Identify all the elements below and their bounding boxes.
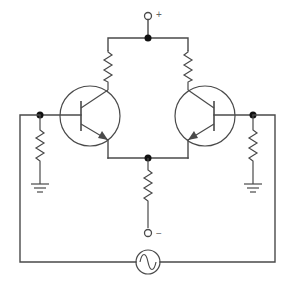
- left-npn-transistor-icon: [40, 86, 120, 158]
- collector-supply-rail: [108, 35, 188, 51]
- ac-source-icon: [136, 250, 160, 274]
- emitter-resistor-icon: [144, 158, 152, 228]
- junction-dot-top: [145, 35, 152, 42]
- negative-supply-terminal: −: [145, 228, 163, 239]
- left-base-network: [31, 112, 49, 193]
- differential-amplifier-schematic: +: [0, 0, 290, 289]
- left-collector-resistor-icon: [104, 50, 112, 90]
- right-npn-transistor-icon: [175, 86, 253, 158]
- right-base-network: [244, 112, 262, 193]
- positive-label: +: [156, 9, 162, 20]
- ground-icon: [31, 184, 49, 192]
- ground-icon: [244, 184, 262, 192]
- positive-supply-terminal: +: [145, 9, 163, 38]
- negative-label: −: [156, 228, 162, 239]
- right-collector-resistor-icon: [184, 50, 192, 90]
- input-loop-wire: [20, 115, 275, 262]
